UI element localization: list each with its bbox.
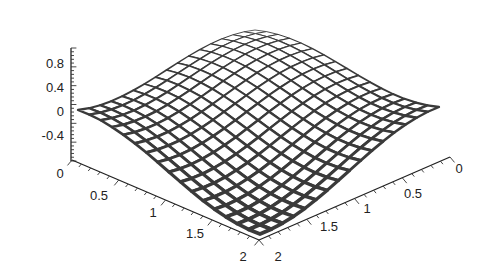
axis-tick — [144, 192, 147, 195]
x-tick-label: 1 — [149, 205, 156, 220]
axis-tick — [393, 182, 396, 185]
z-tick-label: 0.4 — [46, 80, 64, 95]
x-tick-label: 0.5 — [90, 188, 108, 203]
axis-tick — [440, 161, 443, 164]
surface-plot: 0.8 0.4 0 -0.4 0 0.5 1 1.5 2 0 0.5 1 1.5… — [0, 0, 492, 274]
axis-tick — [259, 240, 264, 245]
axis-tick — [450, 157, 455, 162]
axis-tick — [135, 188, 138, 191]
axis-tick — [255, 240, 260, 245]
axis-tick — [126, 184, 129, 187]
axis-tick — [431, 165, 434, 168]
z-tick-label: -0.4 — [42, 128, 64, 143]
axis-tick — [68, 160, 73, 165]
axis-tick — [219, 224, 222, 227]
axis-tick — [316, 215, 319, 218]
axis-tick — [402, 178, 407, 183]
axis-tick — [182, 208, 185, 211]
axis-tick — [228, 228, 231, 231]
axis-tick — [269, 236, 272, 239]
y-tick-label: 1 — [363, 201, 370, 216]
axis-tick — [208, 220, 213, 225]
axis-tick — [161, 200, 166, 205]
axis-tick — [421, 169, 424, 172]
x-tick-label: 0 — [56, 166, 63, 181]
y-tick-label: 2 — [274, 249, 281, 264]
axis-tick — [412, 174, 415, 177]
axis-tick — [297, 223, 300, 226]
z-axis: 0.8 0.4 0 -0.4 — [42, 48, 77, 161]
z-tick-label: 0 — [57, 104, 64, 119]
axis-tick — [335, 207, 338, 210]
z-tick-label: 0.8 — [46, 56, 64, 71]
axis-tick — [307, 219, 312, 224]
axis-tick — [345, 203, 348, 206]
x-tick-label: 1.5 — [186, 226, 204, 241]
axis-tick — [238, 232, 241, 235]
axis-tick — [107, 176, 110, 179]
axis-tick — [154, 196, 157, 199]
axis-tick — [374, 190, 377, 193]
axis-tick — [326, 211, 329, 214]
axis-tick — [98, 172, 101, 175]
axis-tick — [278, 232, 281, 235]
y-tick-label: 0 — [455, 161, 462, 176]
mesh-cell — [249, 225, 272, 234]
axis-tick — [383, 186, 386, 189]
x-tick-label: 2 — [239, 249, 246, 264]
axis-tick — [200, 216, 203, 219]
y-tick-label: 0.5 — [404, 186, 422, 201]
axis-tick — [288, 228, 291, 231]
axis-tick — [172, 204, 175, 207]
axis-tick — [79, 164, 82, 167]
axis-tick — [191, 212, 194, 215]
axis-tick — [355, 199, 360, 204]
surface-mesh — [78, 30, 439, 234]
axis-tick — [247, 236, 250, 239]
axis-tick — [88, 168, 91, 171]
axis-tick — [364, 194, 367, 197]
y-tick-label: 1.5 — [320, 219, 338, 234]
axis-tick — [114, 180, 119, 185]
